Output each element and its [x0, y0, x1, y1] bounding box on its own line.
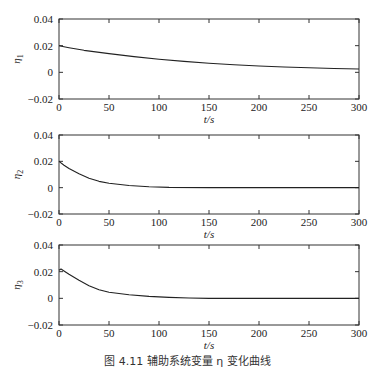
figure-caption: 图 4.11 辅助系统变量 η 变化曲线 — [0, 352, 375, 368]
x-tick-label: 50 — [104, 216, 116, 228]
x-tick-label: 250 — [301, 327, 318, 339]
plot-frame — [59, 19, 359, 99]
x-tick-label: 0 — [56, 216, 62, 228]
x-tick-label: 200 — [251, 216, 268, 228]
y-tick-label: 0.02 — [34, 155, 53, 167]
x-tick-label: 0 — [56, 327, 62, 339]
y-axis-label: η2 — [10, 170, 25, 179]
x-tick-label: 250 — [301, 101, 318, 113]
x-tick-label: 200 — [251, 327, 268, 339]
y-tick-label: 0.04 — [34, 129, 54, 141]
x-tick-label: 300 — [351, 216, 368, 228]
y-tick-label: 0.04 — [34, 239, 54, 251]
y-tick-label: 0 — [48, 182, 54, 194]
y-tick-label: 0 — [48, 292, 54, 304]
y-tick-label: 0.02 — [34, 40, 53, 52]
plot-frame — [59, 245, 359, 325]
x-axis-label: t/s — [204, 339, 214, 351]
y-axis-label: η1 — [10, 54, 25, 63]
series-line-η2 — [59, 161, 359, 187]
y-tick-label: 0.04 — [34, 13, 54, 25]
x-tick-label: 250 — [301, 216, 318, 228]
x-tick-label: 0 — [56, 101, 62, 113]
x-tick-label: 50 — [104, 327, 116, 339]
y-axis-label: η3 — [10, 280, 25, 289]
y-tick-label: −0.02 — [28, 319, 53, 331]
series-line-η3 — [59, 269, 359, 298]
x-tick-label: 150 — [201, 327, 218, 339]
panel-eta3: 050100150200250300−0.0200.020.04t/sη3 — [10, 239, 368, 351]
x-tick-label: 150 — [201, 101, 218, 113]
y-tick-label: 0.02 — [34, 266, 53, 278]
plot-frame — [59, 135, 359, 214]
x-tick-label: 300 — [351, 101, 368, 113]
x-tick-label: 200 — [251, 101, 268, 113]
x-tick-label: 300 — [351, 327, 368, 339]
x-axis-label: t/s — [204, 113, 214, 125]
y-tick-label: 0 — [48, 66, 54, 78]
x-axis-label: t/s — [204, 228, 214, 240]
panel-eta2: 050100150200250300−0.0200.020.04t/sη2 — [10, 129, 368, 240]
x-tick-label: 100 — [151, 216, 168, 228]
y-tick-label: −0.02 — [28, 93, 53, 105]
panel-eta1: 050100150200250300−0.0200.020.04t/sη1 — [10, 13, 368, 125]
x-tick-label: 100 — [151, 327, 168, 339]
y-tick-label: −0.02 — [28, 208, 53, 220]
series-line-η1 — [59, 46, 359, 69]
x-tick-label: 150 — [201, 216, 218, 228]
x-tick-label: 50 — [104, 101, 116, 113]
x-tick-label: 100 — [151, 101, 168, 113]
